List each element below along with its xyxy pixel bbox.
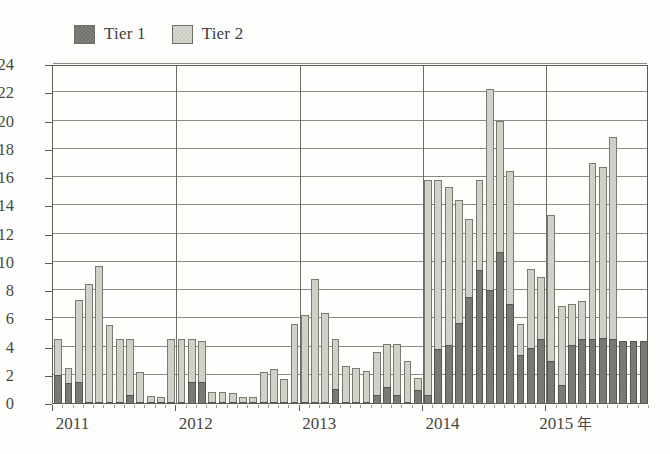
x-tick-minor: [144, 405, 145, 408]
x-tick-mark-2014: [422, 405, 423, 411]
x-tick-minor: [453, 405, 454, 408]
bar-2014-11[interactable]: [527, 269, 535, 403]
bar-2012-09[interactable]: [260, 372, 268, 403]
bar-2012-10[interactable]: [270, 369, 278, 403]
y-tick-mark-22: [45, 93, 52, 94]
y-tick-label-10: 10: [0, 255, 14, 272]
bar-segment-tier-1: [260, 402, 268, 403]
chart-root: Tier 1 Tier 2 242220181614121086420 2011…: [0, 0, 670, 454]
y-tick-mark-16: [45, 178, 52, 179]
bar-segment-tier-1: [424, 395, 432, 403]
bar-2014-06[interactable]: [476, 180, 484, 403]
bar-2011-01[interactable]: [54, 339, 62, 403]
bar-2011-08[interactable]: [126, 339, 134, 403]
bar-2014-10[interactable]: [517, 324, 525, 403]
bar-2012-08[interactable]: [249, 397, 257, 403]
x-tick-minor: [504, 405, 505, 408]
bar-segment-tier-2: [506, 171, 514, 304]
bar-segment-tier-2: [527, 269, 535, 348]
bar-segment-tier-2: [414, 378, 422, 391]
bar-2014-04[interactable]: [455, 200, 463, 403]
bar-2011-06[interactable]: [106, 325, 114, 403]
bar-2013-08[interactable]: [373, 352, 381, 403]
bar-segment-tier-1: [414, 390, 422, 403]
bar-2011-02[interactable]: [65, 368, 73, 403]
x-tick-minor: [473, 405, 474, 408]
bar-2012-05[interactable]: [219, 392, 227, 403]
legend-swatch-icon-tier-1: [74, 25, 95, 44]
x-tick-minor: [247, 405, 248, 408]
bar-segment-tier-1: [609, 339, 617, 403]
x-tick-minor: [350, 405, 351, 408]
bar-2011-04[interactable]: [85, 284, 93, 403]
bar-2012-01[interactable]: [178, 339, 186, 403]
bar-2012-06[interactable]: [229, 393, 237, 403]
legend-item-tier-2[interactable]: Tier 2: [172, 24, 244, 44]
bar-2011-12[interactable]: [167, 339, 175, 403]
bar-segment-tier-1: [178, 402, 186, 403]
bar-2013-09[interactable]: [383, 344, 391, 403]
bar-2013-10[interactable]: [393, 344, 401, 403]
bar-2015-09[interactable]: [630, 341, 638, 403]
y-tick-mark-2: [45, 376, 52, 377]
legend-item-tier-1[interactable]: Tier 1: [74, 24, 146, 44]
y-tick-label-2: 2: [0, 368, 14, 385]
bar-2015-07[interactable]: [609, 137, 617, 403]
bar-segment-tier-1: [496, 252, 504, 403]
bar-2012-03[interactable]: [198, 341, 206, 403]
bar-2013-07[interactable]: [363, 371, 371, 403]
bar-2014-03[interactable]: [445, 187, 453, 403]
bar-segment-tier-1: [239, 402, 247, 403]
bar-2014-02[interactable]: [434, 180, 442, 403]
bar-2011-10[interactable]: [147, 396, 155, 403]
bar-2013-12[interactable]: [414, 378, 422, 403]
bar-2014-09[interactable]: [506, 171, 514, 403]
x-tick-minor: [93, 405, 94, 408]
x-tick-label-2011: 2011: [56, 415, 89, 432]
bar-2014-08[interactable]: [496, 121, 504, 404]
bar-2013-03[interactable]: [321, 313, 329, 403]
bar-2015-08[interactable]: [619, 341, 627, 403]
bar-2015-04[interactable]: [578, 301, 586, 403]
bar-2015-01[interactable]: [547, 215, 555, 403]
bar-segment-tier-1: [280, 402, 288, 403]
bar-2013-04[interactable]: [332, 339, 340, 403]
bar-2012-12[interactable]: [291, 324, 299, 403]
bar-2013-06[interactable]: [352, 368, 360, 403]
bar-segment-tier-1: [486, 290, 494, 403]
bar-2013-05[interactable]: [342, 366, 350, 403]
y-tick-label-4: 4: [0, 339, 14, 356]
bar-2015-03[interactable]: [568, 304, 576, 403]
x-tick-minor: [432, 405, 433, 408]
x-tick-minor: [309, 405, 310, 408]
y-tick-mark-10: [45, 263, 52, 264]
bar-segment-tier-1: [208, 402, 216, 403]
bar-2014-01[interactable]: [424, 180, 432, 403]
bar-2012-04[interactable]: [208, 392, 216, 403]
x-tick-minor: [566, 405, 567, 408]
bar-2012-11[interactable]: [280, 379, 288, 403]
y-tick-label-16: 16: [0, 170, 14, 187]
bar-2015-02[interactable]: [558, 306, 566, 403]
bar-2011-05[interactable]: [95, 266, 103, 403]
bar-2011-09[interactable]: [136, 372, 144, 403]
bar-segment-tier-1: [116, 402, 124, 403]
bar-segment-tier-1: [434, 349, 442, 403]
bar-2015-06[interactable]: [599, 167, 607, 403]
y-tick-mark-24: [45, 65, 52, 66]
bar-2014-05[interactable]: [465, 219, 473, 403]
bar-2011-03[interactable]: [75, 300, 83, 403]
bar-2014-07[interactable]: [486, 89, 494, 403]
bar-2013-11[interactable]: [404, 361, 412, 403]
bar-2013-01[interactable]: [301, 315, 309, 403]
x-tick-label-2015: 2015年: [539, 415, 592, 432]
bar-2015-05[interactable]: [589, 163, 597, 403]
bar-2014-12[interactable]: [537, 277, 545, 403]
bar-segment-tier-2: [75, 300, 83, 382]
bar-2011-11[interactable]: [157, 397, 165, 403]
bar-2012-02[interactable]: [188, 339, 196, 403]
bar-2013-02[interactable]: [311, 279, 319, 403]
bar-2012-07[interactable]: [239, 397, 247, 403]
bar-2015-10[interactable]: [640, 341, 648, 403]
bar-2011-07[interactable]: [116, 339, 124, 403]
